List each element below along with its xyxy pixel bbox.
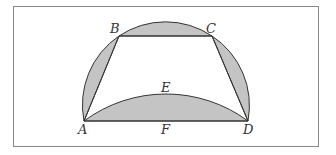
geometry-figure: B C E A F D <box>0 0 336 155</box>
label-e: E <box>160 80 171 95</box>
label-b: B <box>109 21 120 36</box>
shaded-segment-aed <box>84 94 248 121</box>
label-c: C <box>206 21 216 36</box>
shaded-segment-bc <box>119 22 212 36</box>
label-f: F <box>160 122 171 137</box>
label-d: D <box>242 122 254 137</box>
label-a: A <box>77 122 87 137</box>
